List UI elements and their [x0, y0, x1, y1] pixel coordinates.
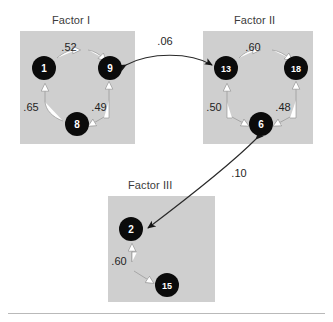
edge-label-13-18: .60 — [245, 41, 260, 53]
panel-title-factor-2: Factor II — [234, 14, 275, 26]
node-6[interactable]: 6 — [249, 112, 273, 136]
node-1[interactable]: 1 — [32, 56, 56, 80]
node-9[interactable]: 9 — [98, 56, 122, 80]
panel-backgrounds — [20, 31, 313, 302]
node-8-label: 8 — [74, 119, 80, 130]
page-bottom-rule — [8, 313, 325, 314]
node-2[interactable]: 2 — [119, 217, 143, 241]
link-curve-f1-f2 — [126, 55, 212, 65]
edge-label-1-9: .52 — [61, 41, 76, 53]
edge-label-8-1: .65 — [23, 101, 38, 113]
path-diagram: 1 9 8 13 18 6 — [0, 0, 333, 322]
edge-label-15-2: .60 — [111, 255, 126, 267]
panel-title-factor-3: Factor III — [128, 179, 172, 191]
panel-title-factor-1: Factor I — [52, 14, 90, 26]
link-label-f1-f2: .06 — [157, 35, 172, 47]
link-label-f3-f2: .10 — [231, 167, 246, 179]
node-2-label: 2 — [128, 224, 134, 235]
node-9-label: 9 — [107, 63, 113, 74]
node-13-label: 13 — [221, 64, 231, 74]
node-6-label: 6 — [258, 119, 264, 130]
edge-label-9-8: .49 — [91, 101, 106, 113]
node-15-label: 15 — [162, 281, 172, 291]
node-18-label: 18 — [291, 64, 301, 74]
node-15[interactable]: 15 — [155, 273, 179, 297]
node-13[interactable]: 13 — [214, 56, 238, 80]
diagram-canvas: 1 9 8 13 18 6 — [0, 0, 333, 322]
edge-label-6-13: .50 — [206, 101, 221, 113]
node-1-label: 1 — [41, 63, 47, 74]
node-18[interactable]: 18 — [284, 56, 308, 80]
edge-label-18-6: .48 — [275, 101, 290, 113]
node-8[interactable]: 8 — [65, 112, 89, 136]
